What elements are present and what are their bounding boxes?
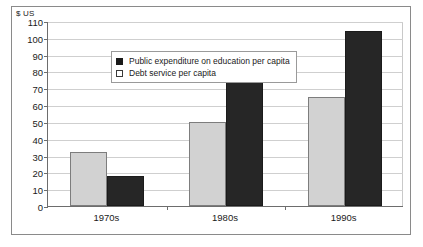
y-axis-tick-label: 100 (27, 33, 43, 44)
y-axis-tick-label: 30 (32, 151, 43, 162)
chart-legend: Public expenditure on education per capi… (111, 51, 297, 83)
y-axis-tick-label: 60 (32, 101, 43, 112)
bar-public-expenditure (107, 176, 144, 206)
x-axis-category-labels: 1970s1980s1990s (47, 212, 403, 228)
x-axis-category-label: 1980s (212, 212, 238, 223)
y-axis-tick-label: 40 (32, 134, 43, 145)
y-axis-tickmark (44, 56, 48, 57)
y-axis-tick-label: 50 (32, 117, 43, 128)
y-axis-tick-label: 90 (32, 50, 43, 61)
y-axis-tickmark (44, 140, 48, 141)
y-axis-tickmark (44, 207, 48, 208)
plot-area: Public expenditure on education per capi… (47, 22, 403, 207)
y-axis-tick-label: 70 (32, 84, 43, 95)
y-axis-tickmark (44, 106, 48, 107)
plot-right-edge (402, 22, 403, 206)
y-axis-tick-label: 80 (32, 67, 43, 78)
legend-item: Public expenditure on education per capi… (116, 55, 290, 67)
legend-label: Debt service per capita (129, 69, 216, 78)
legend-swatch-filled-square-icon (116, 58, 123, 65)
gridline (48, 22, 403, 23)
x-axis-category-label: 1990s (331, 212, 357, 223)
y-axis-tick-labels: 0102030405060708090100110 (14, 22, 43, 207)
y-axis-tickmark (44, 157, 48, 158)
y-axis-tickmark (44, 123, 48, 124)
y-axis-tickmark (44, 89, 48, 90)
y-axis-tickmark (44, 39, 48, 40)
y-axis-tickmark (44, 173, 48, 174)
bar-public-expenditure (345, 31, 382, 206)
chart-figure: $ US 0102030405060708090100110 Public ex… (0, 0, 423, 247)
bar-debt-service (308, 97, 345, 206)
y-axis-tick-label: 20 (32, 168, 43, 179)
legend-item: Debt service per capita (116, 67, 290, 79)
y-axis-tick-label: 10 (32, 185, 43, 196)
y-axis-tickmark (44, 72, 48, 73)
bar-public-expenditure (226, 73, 263, 206)
bar-debt-service (70, 152, 107, 206)
x-axis-tickmark (167, 206, 168, 210)
y-axis-tickmark (44, 22, 48, 23)
bar-debt-service (189, 122, 226, 206)
x-axis-tickmark (285, 206, 286, 210)
legend-label: Public expenditure on education per capi… (129, 57, 290, 66)
y-axis-tick-label: 110 (28, 17, 43, 28)
y-axis-tick-label: 0 (38, 202, 43, 213)
legend-swatch-hollow-square-icon (116, 70, 123, 77)
y-axis-tickmark (44, 190, 48, 191)
x-axis-category-label: 1970s (93, 212, 119, 223)
